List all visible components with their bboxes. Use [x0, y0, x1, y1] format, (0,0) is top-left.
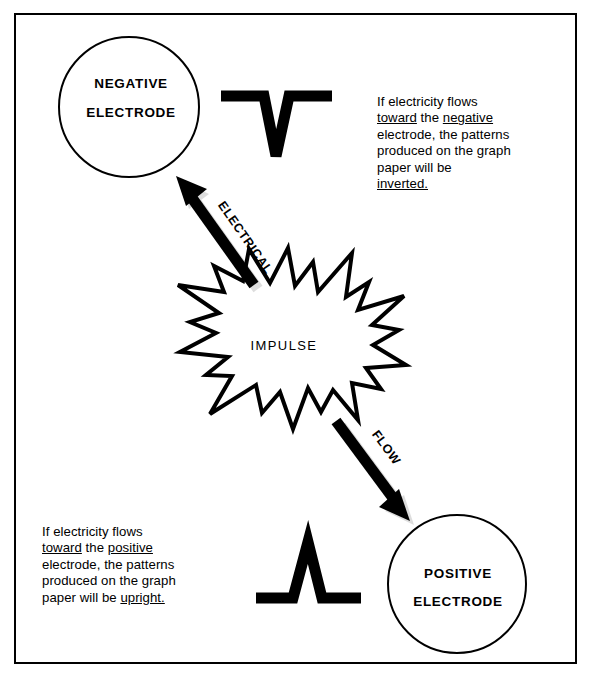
negative-electrode-label-line1: NEGATIVE — [94, 76, 168, 91]
positive-caption-text: If electricity flows toward the positive… — [42, 524, 232, 606]
positive-electrode-label-line2: ELECTRODE — [413, 594, 503, 609]
inverted-waveform-path — [221, 96, 332, 156]
upright-waveform-path — [256, 542, 361, 598]
negative-caption-text: If electricity flows toward the negative… — [377, 94, 557, 192]
positive-electrode-node: POSITIVE ELECTRODE — [388, 515, 526, 653]
negative-electrode-label-line2: ELECTRODE — [86, 105, 176, 120]
positive-electrode-circle — [388, 515, 526, 653]
positive-electrode-label-line1: POSITIVE — [424, 566, 492, 581]
inverted-waveform-icon — [221, 96, 332, 156]
impulse-starburst: IMPULSE — [178, 248, 406, 429]
negative-electrode-node: NEGATIVE ELECTRODE — [59, 37, 199, 177]
flow-down-arrow: FLOW — [336, 421, 414, 525]
upright-waveform-icon — [256, 542, 361, 598]
impulse-label: IMPULSE — [251, 338, 318, 353]
diagram-page: NEGATIVE ELECTRODE POSITIVE ELECTRODE IM… — [0, 0, 595, 685]
